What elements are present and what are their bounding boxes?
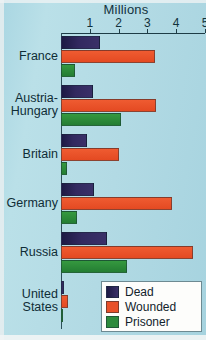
category-label-britain: Britain [0, 148, 58, 161]
bar-austria-hungary-prisoner [61, 113, 121, 126]
bar-united-states-wounded [61, 295, 68, 308]
legend-swatch-prisoner-icon [106, 316, 119, 328]
legend-swatch-dead-icon [106, 286, 119, 298]
bar-united-states-prisoner [61, 309, 63, 322]
legend-label: Prisoner [125, 316, 170, 328]
category-label-germany: Germany [0, 197, 58, 210]
bar-germany-dead [61, 183, 94, 196]
bar-germany-wounded [61, 197, 172, 210]
category-label-russia: Russia [0, 246, 58, 259]
bar-group: Britain [0, 134, 206, 175]
category-label-united-states: UnitedStates [0, 288, 58, 314]
bar-russia-wounded [61, 246, 193, 259]
bar-britain-dead [61, 134, 87, 147]
bar-france-prisoner [61, 64, 75, 77]
bar-united-states-dead [61, 281, 64, 294]
bar-austria-hungary-dead [61, 85, 93, 98]
bar-russia-dead [61, 232, 107, 245]
legend-item-dead: Dead [106, 285, 197, 299]
bar-britain-prisoner [61, 162, 67, 175]
legend-swatch-wounded-icon [106, 301, 119, 313]
bar-austria-hungary-wounded [61, 99, 156, 112]
bar-group: Germany [0, 183, 206, 224]
category-label-line: France [0, 50, 58, 63]
bar-france-dead [61, 36, 100, 49]
bar-russia-prisoner [61, 260, 127, 273]
category-label-line: States [0, 301, 58, 314]
legend-label: Wounded [125, 301, 176, 313]
bar-germany-prisoner [61, 211, 77, 224]
bar-france-wounded [61, 50, 155, 63]
category-label-line: Russia [0, 246, 58, 259]
legend: DeadWoundedPrisoner [101, 281, 202, 332]
legend-item-prisoner: Prisoner [106, 315, 197, 329]
bar-group: Austria-Hungary [0, 85, 206, 126]
bar-group: Russia [0, 232, 206, 273]
legend-item-wounded: Wounded [106, 300, 197, 314]
category-label-france: France [0, 50, 58, 63]
legend-label: Dead [125, 286, 154, 298]
category-label-line: Hungary [0, 105, 58, 118]
bar-group: France [0, 36, 206, 77]
bar-britain-wounded [61, 148, 119, 161]
category-label-austria-hungary: Austria-Hungary [0, 92, 58, 118]
category-label-line: Britain [0, 148, 58, 161]
chart-figure: Millions 12345 FranceAustria-HungaryBrit… [0, 0, 206, 340]
category-label-line: Germany [0, 197, 58, 210]
